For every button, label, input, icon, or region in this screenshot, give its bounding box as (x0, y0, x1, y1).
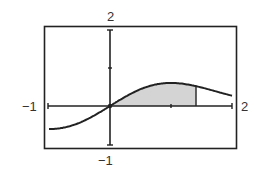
origin-point (108, 104, 112, 108)
shaded-area (110, 83, 196, 106)
viewing-window-frame (45, 27, 237, 149)
plot-area (0, 0, 258, 173)
